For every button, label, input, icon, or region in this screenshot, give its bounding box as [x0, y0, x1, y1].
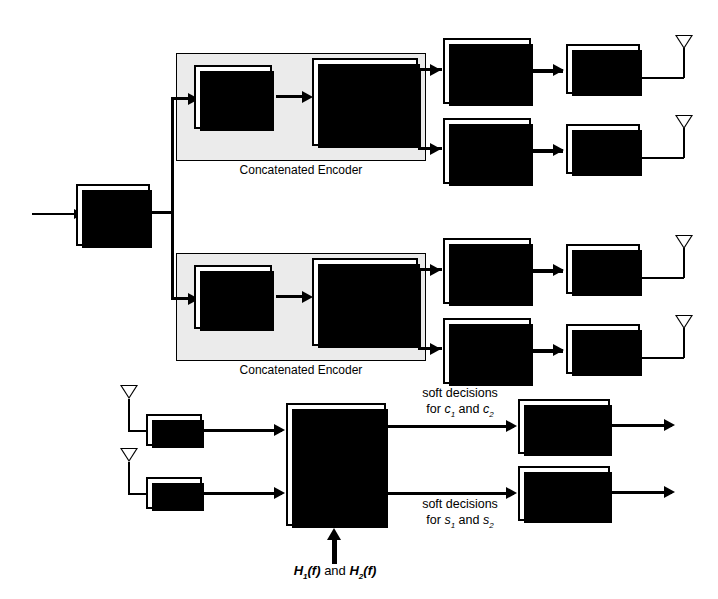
interference-suppression-decoder-block[interactable]: Interference Suppression and Space-Time … — [286, 403, 386, 526]
decoder-line1: Interference — [305, 439, 366, 452]
mod1-to-ifft1-arrowhead — [553, 64, 564, 76]
channel-encoder-r1-line3: R1 — [225, 104, 242, 119]
channel-decoder-r2-line1: Channel — [542, 480, 587, 493]
soft-decisions-top-line2: for c1 and c2 — [385, 402, 535, 420]
fft-1-block[interactable]: FFT — [146, 414, 202, 446]
soft-bot-prefix: for — [426, 513, 444, 527]
decoder-to-chdec1-arrowhead — [506, 420, 517, 432]
soft-decisions-bottom-label: soft decisions for s1 and s2 — [385, 497, 535, 530]
chdec1-output-wire — [610, 424, 672, 427]
modulator-1-block[interactable]: Modulator — [443, 38, 531, 104]
channel-decoder-r2-line2: Decoder R2 — [532, 494, 596, 507]
decoder-line3: and Space-Time — [294, 465, 378, 478]
ifft4-antenna-wire-v — [683, 328, 685, 358]
modulator-1-label: Modulator — [459, 82, 515, 96]
modulator-2-block[interactable]: Modulator — [443, 118, 531, 184]
ifft-1-label: IFFT — [587, 61, 619, 78]
decoder-line4: Block Decoder — [299, 477, 374, 490]
decoder-line2: Suppression — [304, 452, 368, 465]
ifft3-antenna-wire-h — [640, 277, 684, 279]
soft-decisions-bottom-line1: soft decisions — [385, 497, 535, 513]
stbc2-out-top-arrowhead — [430, 264, 441, 276]
stbc1-line1: Space-Time — [330, 87, 400, 102]
csi-arrowhead — [327, 528, 341, 540]
constellation-icon — [464, 247, 510, 281]
rx1-wire-v — [128, 399, 130, 431]
channel-decoder-r1-line2: Decoder R1 — [532, 427, 596, 440]
modulator-4-block[interactable]: Modulator — [443, 318, 531, 384]
sp-split-trunk — [171, 97, 174, 300]
mod3-to-ifft3-arrowhead — [553, 264, 564, 276]
fft1-to-decoder-wire — [202, 429, 282, 432]
h2-symbol: H — [349, 563, 358, 578]
channel-decoder-r1-line1: Channel — [542, 413, 587, 426]
ifft-2-label: IFFT — [587, 141, 619, 158]
concatenated-encoder-label-2: Concatenated Encoder — [176, 363, 426, 377]
soft-decisions-bottom-line2: for s1 and s2 — [385, 513, 535, 531]
channel-encoder-r1-line2: Encoder — [209, 90, 257, 105]
fft2-to-decoder-wire — [202, 492, 282, 495]
h1-arg: (f) — [308, 563, 321, 578]
stbc2-out-bot-arrowhead — [430, 343, 441, 355]
serial-to-parallel-block[interactable]: Serial to Parallel — [76, 184, 150, 246]
fft-1-label: FFT — [161, 422, 187, 438]
soft-decisions-top-label: soft decisions for c1 and c2 — [385, 386, 535, 419]
ifft-3-label: IFFT — [587, 261, 619, 278]
soft-top-sub2: 2 — [489, 409, 493, 418]
ifft4-antenna-wire-h — [640, 357, 684, 359]
serial-to-parallel-line3: Parallel — [91, 222, 134, 237]
ifft2-antenna-wire-v — [683, 128, 685, 158]
ifft-1-block[interactable]: IFFT — [566, 44, 640, 94]
stbc1-out-top-arrowhead — [430, 64, 441, 76]
ifft-4-block[interactable]: IFFT — [566, 324, 640, 374]
stbc1-out-bot-arrowhead — [430, 143, 441, 155]
chdec2-output-arrowhead — [664, 486, 675, 498]
csi-wire — [332, 540, 337, 564]
stbc1-line2: Block Code — [332, 102, 398, 117]
channel-encoder-r1-block[interactable]: Channel Encoder R1 — [194, 65, 272, 129]
space-time-block-code-2-block[interactable]: Space-Time Block Code — [312, 258, 418, 346]
soft-top-prefix: for — [426, 402, 444, 416]
stbc2-line2: Block Code — [332, 302, 398, 317]
fft-2-label: FFT — [161, 485, 187, 501]
ifft-2-block[interactable]: IFFT — [566, 124, 640, 174]
decoder-to-chdec2-wire — [386, 492, 514, 495]
concatenated-encoder-label-1: Concatenated Encoder — [176, 163, 426, 177]
soft-bot-conj: and — [455, 513, 483, 527]
rx1-wire-h — [128, 430, 148, 432]
constellation-icon — [464, 127, 510, 161]
h2-arg: (f) — [363, 563, 376, 578]
ifft2-antenna-wire-h — [640, 157, 684, 159]
channel-state-label: H1(f) and H2(f) — [255, 563, 415, 582]
space-time-block-code-1-block[interactable]: Space-Time Block Code — [312, 58, 418, 146]
serial-to-parallel-line2: to — [108, 208, 119, 223]
channel-encoder-r2-line2: Encoder — [209, 290, 257, 305]
ifft-4-label: IFFT — [587, 341, 619, 358]
channel-encoder-r2-block[interactable]: Channel Encoder R2 — [194, 265, 272, 329]
ifft-3-block[interactable]: IFFT — [566, 244, 640, 294]
mod4-to-ifft4-arrowhead — [553, 344, 564, 356]
soft-bot-sub2: 2 — [489, 520, 493, 529]
channel-encoder-r2-line3: R2 — [225, 304, 242, 319]
mod2-to-ifft2-arrowhead — [553, 144, 564, 156]
modulator-3-block[interactable]: Modulator — [443, 238, 531, 304]
h1-symbol: H — [294, 563, 303, 578]
modulator-3-label: Modulator — [459, 282, 515, 296]
ifft1-antenna-wire-v — [683, 48, 685, 78]
fft2-to-decoder-arrowhead — [274, 487, 285, 499]
fft-2-block[interactable]: FFT — [146, 477, 202, 509]
channel-encoder-r2-line1: Channel — [209, 275, 257, 290]
ifft1-antenna-wire-h — [640, 77, 684, 79]
stbc2-line1: Space-Time — [330, 287, 400, 302]
enc1-to-stbc1-wire — [276, 95, 304, 98]
csi-conjunction: and — [321, 563, 350, 578]
ifft3-antenna-wire-v — [683, 248, 685, 278]
rx2-wire-v — [128, 462, 130, 494]
constellation-icon — [464, 47, 510, 81]
block-diagram-canvas: Serial to Parallel Concatenated Encoder … — [0, 0, 718, 599]
channel-encoder-r1-line1: Channel — [209, 75, 257, 90]
decoder-to-chdec1-wire — [386, 425, 514, 428]
modulator-2-label: Modulator — [459, 162, 515, 176]
constellation-icon — [464, 327, 510, 361]
input-wire — [32, 213, 76, 215]
